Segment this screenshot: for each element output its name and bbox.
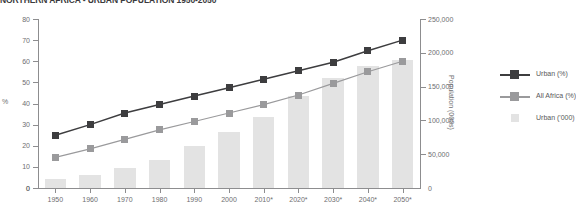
bar [184,146,206,188]
bar [114,168,136,188]
bar [392,60,414,188]
y-tick-label-left: 10 [0,163,30,170]
legend-label: Urban ('000) [536,113,575,122]
y-tick-label-left: 60 [0,58,30,65]
x-tick [403,189,404,193]
series-marker [260,76,267,83]
x-tick [333,189,334,193]
y-axis-left-line [38,19,39,189]
x-tick [264,189,265,193]
y-tick-right [421,53,426,54]
y-tick-right [421,120,426,121]
series-marker [52,132,59,139]
y-tick-label-left: 20 [0,142,30,149]
series-marker [156,126,163,133]
x-tick [368,189,369,193]
bar [149,160,171,188]
y-tick-left [33,104,38,105]
y-tick-label-left: 30 [0,121,30,128]
y-tick-left [33,40,38,41]
bar [322,78,344,188]
y-tick-label-left: 80 [0,16,30,23]
y-tick-right [421,154,426,155]
y-tick-label-right: 100,000 [428,117,472,124]
legend-label: All Africa (%) [536,91,576,100]
y-tick-left [33,125,38,126]
series-marker [121,110,128,117]
y-tick-label-right: 150,000 [428,83,472,90]
legend-item: Urban (%) [500,66,575,88]
legend-label: Urban (%) [536,69,568,78]
x-tick [298,189,299,193]
series-marker [191,93,198,100]
bar [253,117,275,188]
y-tick-right [421,87,426,88]
y-tick-left [33,61,38,62]
y-tick-label-right: 250,000 [428,16,472,23]
series-marker [52,154,59,161]
y-tick-left [33,82,38,83]
y-axis-right-line [420,19,421,189]
series-marker [87,121,94,128]
x-tick [160,189,161,193]
series-marker [226,110,233,117]
x-tick [55,189,56,193]
y-tick-label-left: 40 [0,100,30,107]
series-marker [399,37,406,44]
y-tick-label-zero-left: 0 [0,185,30,192]
y-tick-label-right: 200,000 [428,49,472,56]
legend-item: All Africa (%) [500,88,575,110]
y-tick-label-zero-right: 0 [428,185,472,192]
series-marker [364,47,371,54]
x-tick [125,189,126,193]
x-tick [194,189,195,193]
chart-title: NORTHERN AFRICA - URBAN POPULATION 1950-… [0,0,420,7]
series-marker [226,84,233,91]
series-marker [330,59,337,66]
x-tick-label: 2050* [383,196,423,203]
bar [218,132,240,188]
legend-marker-swatch [510,70,519,79]
y-tick-label-right: 50,000 [428,151,472,158]
y-tick-left [33,167,38,168]
series-marker [260,101,267,108]
legend-item: Urban ('000) [500,110,575,132]
x-tick [90,189,91,193]
y-tick-left [33,19,38,20]
legend-marker-swatch [510,92,519,101]
y-tick-right [421,19,426,20]
chart-legend: Urban (%)All Africa (%)Urban ('000) [500,66,575,132]
bar [357,66,379,188]
series-marker [295,67,302,74]
series-line [55,40,402,135]
bar [288,96,310,188]
series-marker [121,136,128,143]
y-tick-left [33,146,38,147]
y-tick-label-left: 70 [0,37,30,44]
series-marker [156,101,163,108]
series-marker [87,145,94,152]
bar [79,175,101,188]
y-tick-label-left: 50 [0,79,30,86]
y-tick-left [33,188,38,189]
legend-bar-swatch [511,114,519,122]
bar [45,179,67,188]
x-tick [229,189,230,193]
series-marker [191,118,198,125]
